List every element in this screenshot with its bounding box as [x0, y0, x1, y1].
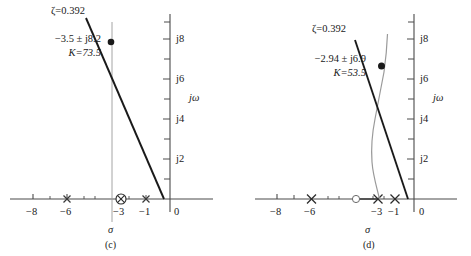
gain-label-d: K=53.5: [263, 67, 366, 78]
sigma-axis-label-c: σ: [108, 224, 113, 235]
tick-label-d-minus3: −3: [371, 206, 382, 217]
tick-label-c-minus1: −1: [139, 206, 150, 217]
circled-x-marker: [116, 194, 126, 204]
operating-point-label-c: −3.5 ± j8.2: [10, 33, 101, 44]
figure-root: −8 −6 −3 −1 0 j2 j4 j6 j8 jω σ ζ=0.392 −…: [0, 0, 471, 256]
imaginary-axis-ticks: [407, 22, 414, 179]
tick-label-d-j4: j4: [420, 113, 428, 124]
tick-label-c-minus8: −8: [26, 206, 37, 217]
zeta-label-c: ζ=0.392: [51, 5, 85, 16]
tick-label-c-minus3: −3: [113, 206, 124, 217]
tick-label-d-minus6: −6: [304, 206, 315, 217]
root-locus-panel-c: −8 −6 −3 −1 0 j2 j4 j6 j8 jω σ ζ=0.392 −…: [0, 0, 236, 256]
tick-label-d-minus8: −8: [270, 206, 281, 217]
tick-label-d-j6: j6: [420, 73, 428, 84]
tick-label-d-j8: j8: [420, 33, 428, 44]
tick-label-c-j6: j6: [176, 73, 184, 84]
operating-point-marker: [108, 39, 115, 46]
operating-point-marker: [378, 63, 385, 70]
panel-caption-d: (d): [363, 240, 375, 251]
panel-d-plot: [235, 0, 471, 256]
imaginary-axis-ticks: [163, 22, 170, 179]
tick-label-c-j4: j4: [176, 113, 184, 124]
tick-label-c-zero: 0: [174, 206, 179, 217]
tick-label-c-j8: j8: [176, 33, 184, 44]
jomega-axis-label-d: jω: [433, 92, 443, 103]
zero-marker-o: [352, 195, 359, 202]
sigma-axis-label-d: σ: [365, 224, 370, 235]
jomega-axis-label-c: jω: [189, 92, 199, 103]
real-axis-ticks: [277, 194, 384, 199]
tick-label-c-minus6: −6: [60, 206, 71, 217]
gain-label-c: K=73.5: [10, 47, 101, 58]
damping-ratio-line: [86, 18, 164, 199]
panel-caption-c: (c): [105, 240, 116, 251]
tick-label-d-j2: j2: [420, 153, 428, 164]
zeta-label-d: ζ=0.392: [312, 23, 346, 34]
tick-label-d-minus1: −1: [388, 206, 399, 217]
real-axis-ticks: [33, 194, 146, 199]
root-locus-panel-d: −8 −6 −3 −1 0 j2 j4 j6 j8 jω σ ζ=0.392 −…: [235, 0, 471, 256]
operating-point-label-d: −2.94 ± j6.9: [263, 53, 366, 64]
tick-label-c-j2: j2: [176, 153, 184, 164]
tick-label-d-zero: 0: [419, 206, 424, 217]
